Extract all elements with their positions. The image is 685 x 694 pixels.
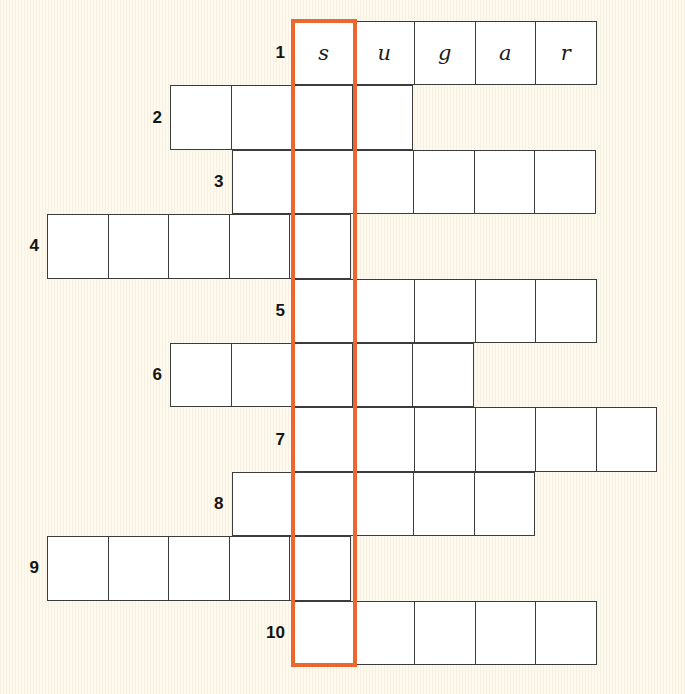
cell-r9-c2[interactable] <box>108 536 170 600</box>
cell-r9-c5[interactable] <box>289 536 351 600</box>
cell-r2-c2[interactable] <box>231 85 293 149</box>
cell-r8-c4[interactable] <box>413 472 475 536</box>
cell-r1-c5[interactable]: r <box>535 21 597 85</box>
cell-r6-c3[interactable] <box>291 343 353 407</box>
cell-r3-c4[interactable] <box>413 150 475 214</box>
cell-r2-c4[interactable] <box>352 85 414 149</box>
cell-r7-c4[interactable] <box>475 407 537 471</box>
cell-r2-c1[interactable] <box>170 85 232 149</box>
cell-r2-c3[interactable] <box>291 85 353 149</box>
row-number-5: 5 <box>249 302 285 319</box>
cell-r4-c2[interactable] <box>108 214 170 278</box>
crossword-row-5 <box>293 279 597 343</box>
cell-r10-c4[interactable] <box>475 601 537 665</box>
cell-r8-c5[interactable] <box>474 472 536 536</box>
cell-r1-c1[interactable]: s <box>293 21 355 85</box>
crossword-row-6 <box>170 343 474 407</box>
crossword-row-3 <box>232 150 596 214</box>
row-number-10: 10 <box>249 624 285 641</box>
crossword-puzzle-grid: 1sugar2345678910 <box>0 0 685 694</box>
row-number-7: 7 <box>249 431 285 448</box>
cell-r6-c1[interactable] <box>170 343 232 407</box>
cell-r9-c3[interactable] <box>168 536 230 600</box>
cell-r9-c4[interactable] <box>229 536 291 600</box>
row-number-4: 4 <box>3 237 39 254</box>
cell-r8-c1[interactable] <box>232 472 294 536</box>
crossword-row-1: sugar <box>293 21 597 85</box>
cell-r6-c4[interactable] <box>352 343 414 407</box>
crossword-row-10 <box>293 601 597 665</box>
cell-r1-c4[interactable]: a <box>475 21 537 85</box>
cell-r3-c1[interactable] <box>232 150 294 214</box>
cell-r7-c2[interactable] <box>354 407 416 471</box>
cell-r3-c6[interactable] <box>534 150 596 214</box>
crossword-row-9 <box>47 536 351 600</box>
cell-r10-c3[interactable] <box>414 601 476 665</box>
cell-r10-c2[interactable] <box>354 601 416 665</box>
cell-r3-c3[interactable] <box>353 150 415 214</box>
cell-r4-c1[interactable] <box>47 214 109 278</box>
cell-r7-c3[interactable] <box>414 407 476 471</box>
cell-r7-c5[interactable] <box>535 407 597 471</box>
cell-r3-c2[interactable] <box>292 150 354 214</box>
cell-r4-c5[interactable] <box>289 214 351 278</box>
crossword-row-8 <box>232 472 536 536</box>
cell-r5-c3[interactable] <box>414 279 476 343</box>
cell-r10-c5[interactable] <box>535 601 597 665</box>
cell-r9-c1[interactable] <box>47 536 109 600</box>
crossword-row-2 <box>170 85 413 149</box>
cell-r6-c5[interactable] <box>412 343 474 407</box>
cell-r7-c6[interactable] <box>596 407 658 471</box>
row-number-3: 3 <box>188 173 224 190</box>
cell-r4-c3[interactable] <box>168 214 230 278</box>
cell-r10-c1[interactable] <box>293 601 355 665</box>
cell-r5-c5[interactable] <box>535 279 597 343</box>
cell-r1-c2[interactable]: u <box>354 21 416 85</box>
row-number-1: 1 <box>249 44 285 61</box>
cell-r6-c2[interactable] <box>231 343 293 407</box>
cell-r8-c2[interactable] <box>292 472 354 536</box>
crossword-row-4 <box>47 214 351 278</box>
cell-r3-c5[interactable] <box>474 150 536 214</box>
cell-r7-c1[interactable] <box>293 407 355 471</box>
cell-r8-c3[interactable] <box>353 472 415 536</box>
row-number-9: 9 <box>3 559 39 576</box>
cell-r5-c2[interactable] <box>354 279 416 343</box>
crossword-row-7 <box>293 407 657 471</box>
row-number-8: 8 <box>188 495 224 512</box>
row-number-6: 6 <box>126 366 162 383</box>
cell-r5-c4[interactable] <box>475 279 537 343</box>
row-number-2: 2 <box>126 109 162 126</box>
cell-r4-c4[interactable] <box>229 214 291 278</box>
cell-r5-c1[interactable] <box>293 279 355 343</box>
cell-r1-c3[interactable]: g <box>414 21 476 85</box>
